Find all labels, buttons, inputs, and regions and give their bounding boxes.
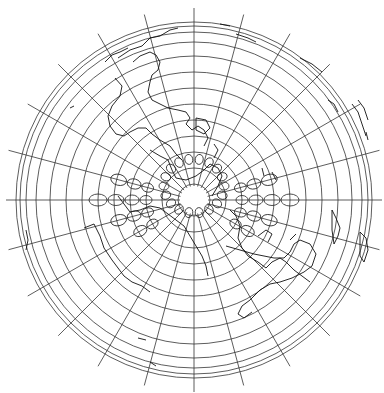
meridian-line	[206, 104, 360, 193]
meridian-line	[9, 150, 181, 196]
coastline	[366, 132, 368, 140]
azimuthal-map	[0, 0, 384, 393]
tissot-ellipse	[194, 154, 204, 165]
coastline	[262, 168, 264, 176]
coastline	[26, 230, 28, 250]
coastline	[133, 52, 208, 146]
meridian-line	[201, 34, 290, 188]
meridian-line	[144, 15, 190, 187]
meridian-line	[144, 214, 190, 386]
coastline	[230, 210, 310, 282]
tissot-ellipse	[184, 154, 194, 165]
meridian-line	[98, 34, 187, 188]
meridian-line	[28, 207, 182, 296]
meridian-line	[204, 64, 330, 190]
coastline	[70, 106, 74, 108]
coastline	[138, 338, 146, 340]
meridian-line	[208, 204, 380, 250]
tissot-ellipse	[184, 207, 194, 218]
meridian-line	[28, 104, 182, 193]
meridian-line	[198, 214, 244, 386]
meridian-line	[198, 15, 244, 187]
meridian-line	[58, 64, 184, 190]
meridian-line	[208, 150, 380, 196]
meridian-line	[9, 204, 181, 250]
tissot-ellipse	[194, 207, 204, 218]
graticule-meridians	[6, 8, 382, 392]
coastline	[290, 234, 296, 240]
meridian-line	[204, 210, 330, 336]
coastline	[214, 144, 218, 158]
map-canvas	[0, 0, 384, 393]
